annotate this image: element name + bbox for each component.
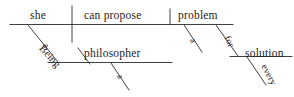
label-subject: she [30,10,46,22]
sentence-diagram: she can propose problem philosopher solu… [0,0,294,97]
label-gerund-object: philosopher [84,48,141,60]
label-prep-object: solution [245,48,284,60]
label-verb: can propose [84,10,141,22]
label-direct-object: problem [178,10,218,22]
